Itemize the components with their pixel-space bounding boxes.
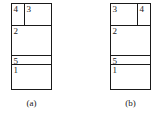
- figure-panel-a: 4 3 2 5 1 (a): [0, 0, 81, 118]
- figure-panel-b: 3 4 2 5 1 (b): [81, 0, 162, 118]
- region-band-top-b: 3 4: [111, 4, 150, 26]
- region-label-3-b: 3: [113, 4, 118, 14]
- region-cell-3-a: 3: [25, 4, 51, 25]
- region-cell-2-b: 2: [111, 26, 150, 56]
- region-label-1-b: 1: [113, 65, 118, 75]
- region-cell-2-a: 2: [12, 26, 51, 56]
- figure-caption-b: (b): [110, 98, 151, 109]
- region-cell-4-b: 4: [138, 4, 150, 25]
- partition-diagram-a: 4 3 2 5 1: [11, 3, 52, 90]
- region-label-3-a: 3: [27, 4, 32, 14]
- region-cell-4-a: 4: [12, 4, 25, 25]
- region-cell-1-a: 1: [12, 65, 51, 89]
- partition-diagram-b: 3 4 2 5 1: [110, 3, 151, 90]
- figure-caption-a: (a): [11, 98, 52, 109]
- region-label-2-b: 2: [113, 26, 118, 36]
- region-cell-1-b: 1: [111, 65, 150, 89]
- region-cell-5-a: 5: [12, 56, 51, 65]
- region-label-1-a: 1: [14, 65, 19, 75]
- region-label-2-a: 2: [14, 26, 19, 36]
- region-band-top-a: 4 3: [12, 4, 51, 26]
- region-label-4-a: 4: [14, 4, 19, 14]
- region-label-4-b: 4: [140, 4, 145, 14]
- region-cell-5-b: 5: [111, 56, 150, 65]
- region-cell-3-b: 3: [111, 4, 138, 25]
